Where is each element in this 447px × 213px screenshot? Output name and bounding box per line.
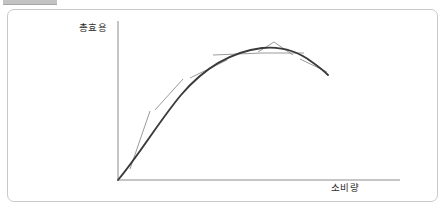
tangent-lines: [130, 42, 327, 169]
y-axis-label: 총효용: [79, 23, 107, 33]
x-axis-label: 소비량: [331, 183, 359, 193]
tangent-mid-line: [155, 79, 183, 110]
total-utility-chart: [0, 0, 447, 213]
